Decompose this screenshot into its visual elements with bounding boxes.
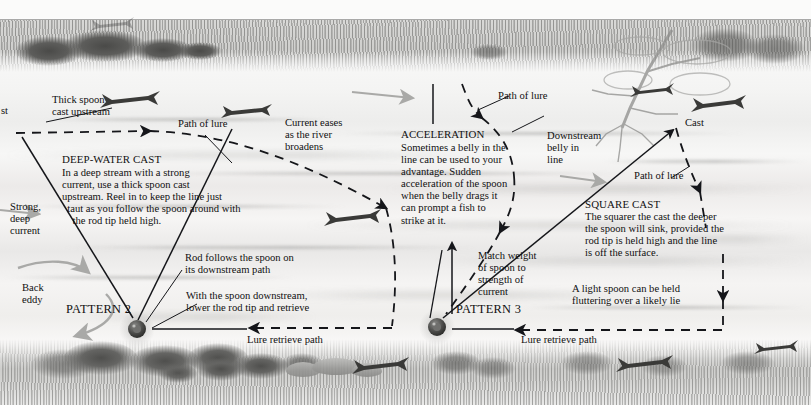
with-spoon-downstream-label: With the spoon downstream, lower the rod…: [186, 290, 309, 314]
top-bank: [0, 0, 811, 72]
back-eddy-label: Back eddy: [22, 282, 44, 306]
path-of-lure-label-2: Path of lure: [498, 90, 547, 102]
match-weight-label: Match weight of spoon to strength of cur…: [478, 250, 537, 298]
cast-label: Cast: [685, 117, 704, 129]
acceleration-body: Sometimes a belly in the line can be use…: [401, 142, 507, 227]
bottom-bank: [0, 333, 811, 405]
cut-off-left-label: st: [1, 105, 8, 117]
lure-retrieve-path-label-left: Lure retrieve path: [247, 334, 323, 346]
thick-spoon-label: Thick spoon cast upstream: [52, 94, 110, 118]
pattern-2-label: PATTERN 2: [66, 303, 131, 315]
strong-deep-current-label: Strong, deep current: [10, 201, 41, 237]
illustration-canvas: st Thick spoon cast upstream Path of lur…: [0, 0, 811, 405]
acceleration-heading: ACCELERATION: [401, 128, 484, 140]
current-eases-label: Current eases as the river broadens: [285, 117, 342, 153]
rod-follows-label: Rod follows the spoon on its downstream …: [185, 252, 294, 276]
pattern-3-label: PATTERN 3: [456, 303, 521, 315]
light-spoon-label: A light spoon can be held fluttering ove…: [572, 283, 680, 307]
path-of-lure-label-3: Path of lure: [634, 170, 683, 182]
lure-retrieve-path-label-right: Lure retrieve path: [521, 334, 597, 346]
square-cast-body: The squarer the cast the deeper the spoo…: [585, 211, 724, 259]
deep-water-cast-body: In a deep stream with a strong current, …: [62, 167, 241, 227]
square-cast-heading: SQUARE CAST: [585, 198, 660, 210]
deep-water-cast-heading: DEEP-WATER CAST: [62, 153, 161, 165]
downstream-belly-label: Downstream belly in line: [547, 130, 601, 166]
path-of-lure-label-1: Path of lure: [178, 118, 227, 130]
